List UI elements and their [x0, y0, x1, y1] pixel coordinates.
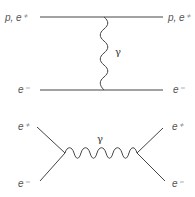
feynman-diagrams: p, e⁺ p, e⁺ γ e⁻ e⁻ e⁺ e⁻ γ e⁺ e⁻ [0, 0, 195, 197]
photon-label-bottom: γ [97, 133, 103, 144]
fermion-leg-out-bottom [137, 153, 165, 181]
label-bottom-right: e⁻ [173, 84, 185, 95]
s-channel-diagram: e⁺ e⁻ γ e⁺ e⁻ [18, 121, 184, 189]
t-channel-diagram: p, e⁺ p, e⁺ γ e⁻ e⁻ [4, 12, 191, 95]
fermion-leg-in-bottom [40, 153, 65, 181]
label-out-electron: e⁻ [172, 178, 184, 189]
photon-label-top: γ [115, 46, 121, 57]
label-in-electron: e⁻ [18, 178, 30, 189]
photon-propagator-vertical [100, 17, 108, 90]
label-top-left: p, e⁺ [4, 12, 28, 23]
label-bottom-left: e⁻ [18, 84, 30, 95]
fermion-leg-in-top [37, 127, 65, 153]
label-in-positron: e⁺ [18, 121, 30, 132]
photon-propagator-horizontal [65, 148, 137, 159]
label-out-positron: e⁺ [172, 121, 184, 132]
fermion-leg-out-top [137, 128, 163, 153]
label-top-right: p, e⁺ [167, 12, 191, 23]
